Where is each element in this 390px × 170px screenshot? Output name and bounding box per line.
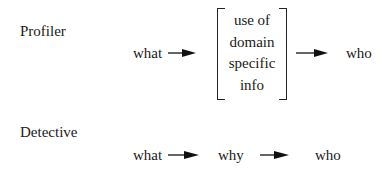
detective-what: what bbox=[133, 147, 162, 163]
arrow-icon bbox=[168, 48, 196, 58]
arrow-icon bbox=[296, 48, 328, 58]
box-line: use of bbox=[224, 10, 280, 32]
arrow-icon bbox=[260, 150, 289, 160]
right-bracket bbox=[279, 8, 287, 100]
detective-why: why bbox=[218, 147, 244, 163]
domain-info-box: use of domain specific info bbox=[224, 10, 280, 96]
detective-who: who bbox=[315, 147, 341, 163]
box-line: info bbox=[224, 75, 280, 97]
detective-label: Detective bbox=[20, 124, 77, 140]
profiler-label: Profiler bbox=[20, 23, 66, 39]
box-line: domain bbox=[224, 32, 280, 54]
arrow-icon bbox=[168, 150, 199, 160]
box-line: specific bbox=[224, 53, 280, 75]
profiler-what: what bbox=[133, 45, 162, 61]
profiler-who: who bbox=[346, 45, 372, 61]
